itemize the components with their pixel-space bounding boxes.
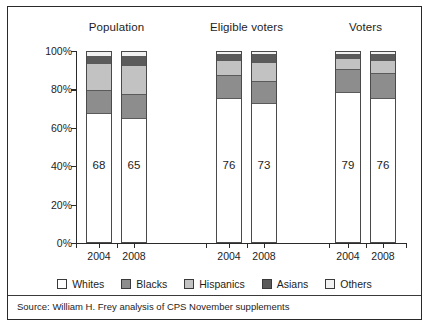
group-title-eligible-voters: Eligible voters xyxy=(187,21,307,33)
chart-legend: WhitesBlacksHispanicsAsiansOthers xyxy=(8,275,421,293)
segment-blacks xyxy=(122,94,146,119)
segment-blacks xyxy=(336,69,360,92)
group-title-row: PopulationEligible votersVoters xyxy=(8,21,421,37)
y-tick-label-0: 0% xyxy=(57,237,72,249)
x-tick-mark xyxy=(348,243,349,248)
bar-population-2008[interactable] xyxy=(121,51,147,243)
bar-voters-2008[interactable] xyxy=(370,51,396,243)
source-note: Source: William H. Frey analysis of CPS … xyxy=(17,301,289,312)
x-tick-mark-minor xyxy=(206,243,207,248)
segment-asians xyxy=(87,56,111,64)
x-tick-mark-minor xyxy=(366,243,367,248)
segment-blacks xyxy=(217,75,241,98)
group-title-voters: Voters xyxy=(306,21,426,33)
legend-item-others[interactable]: Others xyxy=(325,278,372,290)
x-tick-mark-minor xyxy=(247,243,248,248)
bar-voters-2004[interactable] xyxy=(335,51,361,243)
legend-swatch-hispanics xyxy=(184,279,194,289)
y-tick-mark-80 xyxy=(71,89,77,90)
segment-whites xyxy=(252,103,276,242)
x-axis-line xyxy=(76,243,406,244)
bar-value-label: 65 xyxy=(121,159,147,171)
legend-label: Hispanics xyxy=(199,278,245,290)
segment-hispanics xyxy=(336,58,360,69)
segment-whites xyxy=(122,118,146,242)
x-label-2004-0: 2004 xyxy=(79,250,119,262)
segment-hispanics xyxy=(252,62,276,81)
bar-value-label: 68 xyxy=(86,159,112,171)
segment-asians xyxy=(252,54,276,62)
x-tick-mark-minor xyxy=(329,243,330,248)
x-tick-mark xyxy=(383,243,384,248)
x-axis-labels: 200420082004200820042008 xyxy=(76,250,406,266)
y-axis-labels: 0%20%40%60%80%100% xyxy=(40,51,76,243)
chart-figure: PopulationEligible votersVoters 0%20%40%… xyxy=(7,6,422,320)
segment-hispanics xyxy=(217,60,241,75)
bar-value-label: 76 xyxy=(370,159,396,171)
legend-swatch-blacks xyxy=(121,279,131,289)
legend-item-whites[interactable]: Whites xyxy=(57,278,104,290)
segment-hispanics xyxy=(122,65,146,94)
y-tick-mark-40 xyxy=(71,166,77,167)
legend-label: Asians xyxy=(277,278,309,290)
y-tick-label-40: 40% xyxy=(51,160,72,172)
segment-hispanics xyxy=(87,63,111,90)
segment-blacks xyxy=(371,73,395,98)
x-tick-mark-minor xyxy=(406,243,407,248)
y-tick-mark-60 xyxy=(71,128,77,129)
x-label-2008-3: 2008 xyxy=(244,250,284,262)
legend-divider xyxy=(8,295,421,296)
legend-label: Blacks xyxy=(136,278,167,290)
x-tick-mark-minor xyxy=(76,243,77,248)
legend-item-blacks[interactable]: Blacks xyxy=(121,278,167,290)
y-tick-mark-100 xyxy=(71,51,77,52)
x-tick-mark xyxy=(229,243,230,248)
bar-eligible-voters-2008[interactable] xyxy=(251,51,277,243)
segment-blacks xyxy=(87,90,111,113)
legend-label: Others xyxy=(340,278,372,290)
group-title-population: Population xyxy=(57,21,177,33)
legend-item-hispanics[interactable]: Hispanics xyxy=(184,278,245,290)
bar-value-label: 73 xyxy=(251,159,277,171)
legend-swatch-others xyxy=(325,279,335,289)
segment-hispanics xyxy=(371,60,395,73)
x-tick-mark xyxy=(134,243,135,248)
x-label-2008-5: 2008 xyxy=(363,250,403,262)
legend-swatch-asians xyxy=(262,279,272,289)
x-label-2008-1: 2008 xyxy=(114,250,154,262)
legend-label: Whites xyxy=(72,278,104,290)
x-tick-mark-minor xyxy=(117,243,118,248)
segment-whites xyxy=(87,113,111,242)
bars-layer: 686576737976 xyxy=(76,51,406,243)
segment-blacks xyxy=(252,81,276,104)
y-tick-mark-20 xyxy=(71,205,77,206)
x-tick-mark xyxy=(99,243,100,248)
bar-eligible-voters-2004[interactable] xyxy=(216,51,242,243)
x-label-2004-4: 2004 xyxy=(328,250,368,262)
x-tick-mark xyxy=(264,243,265,248)
bar-value-label: 76 xyxy=(216,159,242,171)
y-tick-label-20: 20% xyxy=(51,199,72,211)
y-tick-label-60: 60% xyxy=(51,122,72,134)
segment-asians xyxy=(122,56,146,66)
y-tick-label-100: 100% xyxy=(45,45,72,57)
x-label-2004-2: 2004 xyxy=(209,250,249,262)
plot-area: PopulationEligible votersVoters 0%20%40%… xyxy=(8,7,421,319)
bar-population-2004[interactable] xyxy=(86,51,112,243)
legend-swatch-whites xyxy=(57,279,67,289)
bar-value-label: 79 xyxy=(335,159,361,171)
y-tick-label-80: 80% xyxy=(51,83,72,95)
legend-item-asians[interactable]: Asians xyxy=(262,278,309,290)
